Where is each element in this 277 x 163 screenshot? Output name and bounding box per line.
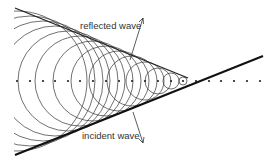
source-dot [42,80,44,82]
reflected-wave-label: reflected wave [80,20,141,31]
source-dot [79,80,81,82]
source-dot [182,80,184,82]
source-dot [54,80,56,82]
source-dot [259,80,261,82]
source-dot [131,80,133,82]
source-dot [105,80,107,82]
source-dot [16,80,18,82]
wavefront-circle [0,21,103,141]
source-dot [246,80,248,82]
source-dot [170,80,172,82]
source-dot [67,80,69,82]
source-dot [29,80,31,82]
source-dot [220,80,222,82]
source-dot [92,80,94,82]
source-dot [208,80,210,82]
source-dot [157,80,159,82]
source-dot [233,80,235,82]
source-dot [118,80,120,82]
incident-wave-label: incident wave [82,130,140,141]
source-dot [144,80,146,82]
